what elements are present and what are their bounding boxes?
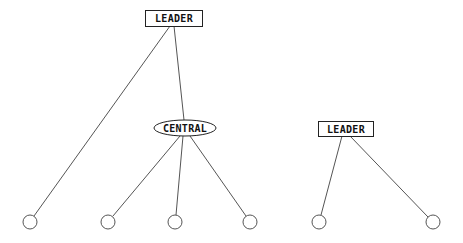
central-label: CENTRAL [163, 123, 207, 134]
leaf-nodes [23, 215, 440, 229]
network-diagram: LEADER CENTRAL LEADER [0, 0, 463, 243]
leader-node-top[interactable]: LEADER [146, 11, 203, 27]
leader-label: LEADER [327, 124, 366, 135]
leaf-node-circle[interactable] [243, 215, 257, 229]
edge-leader1-central [174, 26, 184, 120]
edge-central-c2 [113, 136, 180, 216]
leaf-node-circle[interactable] [168, 215, 182, 229]
leaf-node-circle[interactable] [23, 215, 37, 229]
leaf-node-circle[interactable] [101, 215, 115, 229]
leader-label: LEADER [155, 13, 194, 24]
edge-leader2-c5 [321, 136, 342, 215]
leaf-node-circle[interactable] [426, 215, 440, 229]
edge-leader1-c1 [34, 26, 170, 216]
leader-node-right[interactable]: LEADER [319, 122, 374, 137]
edge-central-c3 [176, 136, 183, 215]
edge-central-c4 [190, 136, 246, 216]
edge-leader2-c6 [350, 136, 428, 217]
leaf-node-circle[interactable] [312, 215, 326, 229]
central-node[interactable]: CENTRAL [154, 120, 216, 136]
